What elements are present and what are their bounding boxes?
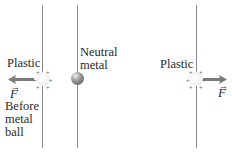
charge-plus: +: [199, 69, 203, 75]
charge-plus: +: [49, 77, 53, 83]
neutral-metal-label: Neutral metal: [80, 46, 117, 72]
charge-plus: +: [199, 84, 203, 90]
left-plastic-label: Plastic: [7, 57, 40, 70]
charge-plus: +: [189, 84, 193, 90]
right-plastic-label: Plastic: [160, 58, 193, 71]
metal-label-line: metal: [80, 59, 117, 72]
vector-mark: →: [219, 80, 228, 93]
vector-mark: →: [11, 81, 20, 94]
right-force-label: → F: [218, 86, 226, 99]
neutral-metal-ball: [71, 72, 84, 85]
charge-plus: +: [46, 84, 50, 90]
charge-plus: +: [46, 69, 50, 75]
charge-plus: +: [186, 77, 190, 83]
charge-plus: +: [36, 84, 40, 90]
before-caption: Before metal ball: [5, 100, 39, 139]
caption-line: ball: [5, 126, 39, 139]
